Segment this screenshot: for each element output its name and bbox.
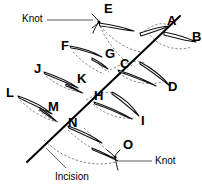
suture-label-f: F: [61, 39, 69, 52]
knot-marker-e: [92, 14, 101, 33]
knot-bottom-label: Knot: [155, 156, 176, 166]
suture-label-h: H: [94, 89, 103, 102]
suture-thread-f: [70, 46, 102, 57]
suture-label-b: B: [192, 30, 201, 43]
suture-label-d: D: [168, 80, 177, 93]
suture-thread-e: [99, 23, 134, 31]
suture-label-l: L: [6, 86, 14, 99]
suture-thread-d: [140, 62, 170, 86]
suture-label-m: M: [48, 100, 59, 113]
surgical-suture-diagram: Knot Knot Incision A B C D E F G H I J K…: [0, 0, 202, 189]
suture-arc-n: [68, 130, 118, 158]
suture-label-e: E: [104, 2, 113, 15]
suture-label-c: C: [120, 57, 129, 70]
suture-thread-c: [118, 70, 156, 86]
suture-thread-o: [92, 148, 118, 161]
suture-thread-l: [18, 96, 52, 114]
incision-label: Incision: [55, 172, 89, 182]
incision-line: [27, 16, 180, 162]
suture-label-k: K: [77, 72, 86, 85]
suture-label-a: A: [167, 14, 176, 27]
suture-arc-o: [44, 140, 116, 164]
suture-label-i: I: [141, 114, 145, 127]
suture-label-j: J: [34, 62, 41, 75]
suture-label-n: N: [68, 116, 77, 129]
suture-label-g: G: [105, 47, 115, 60]
knot-top-label: Knot: [22, 14, 43, 24]
incision-leader-line: [46, 148, 66, 168]
suture-label-o: O: [123, 138, 133, 151]
knot-marker-o: [107, 150, 120, 170]
